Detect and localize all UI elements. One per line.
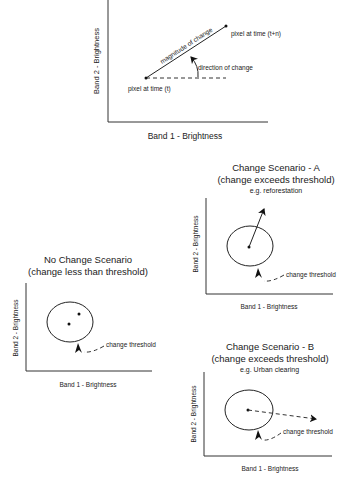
- scenario-b-title: Change Scenario - B: [226, 341, 314, 352]
- scenario-a-title: Change Scenario - A: [232, 162, 320, 173]
- scenario-b-plot: Change Scenario - B (change exceeds thre…: [190, 341, 333, 473]
- y-axis-label: Band 2 - Brightness: [190, 385, 198, 443]
- pixel-tn-dot: [225, 25, 228, 28]
- threshold-pointer: [264, 275, 284, 281]
- scenario-a-subtitle: (change exceeds threshold): [217, 174, 334, 185]
- no-change-title: No Change Scenario: [44, 254, 132, 265]
- threshold-arrowhead: [255, 430, 262, 440]
- threshold-label: change threshold: [286, 271, 336, 279]
- y-axis-label: Band 2 - Brightness: [12, 299, 20, 357]
- change-vector-diagram: Band 2 - Brightness Band 1 - Brightness …: [0, 0, 357, 483]
- x-axis-label: Band 1 - Brightness: [240, 303, 298, 311]
- scenario-a-plot: Change Scenario - A (change exceeds thre…: [192, 162, 336, 311]
- threshold-pointer: [263, 433, 281, 440]
- scenario-b-example: e.g. Urban clearing: [240, 366, 299, 374]
- pixel-tn-label: pixel at time (t+n): [231, 30, 281, 38]
- top-vector-plot: Band 2 - Brightness Band 1 - Brightness …: [92, 0, 281, 141]
- no-change-subtitle: (change less than threshold): [28, 266, 148, 277]
- scenario-b-subtitle: (change exceeds threshold): [211, 353, 328, 364]
- threshold-label: change threshold: [106, 341, 156, 349]
- threshold-arrowhead: [75, 343, 82, 353]
- no-change-plot: No Change Scenario (change less than thr…: [12, 254, 156, 389]
- threshold-arrowhead: [255, 268, 262, 278]
- pixel-tn-dot: [78, 313, 81, 316]
- y-axis-label: Band 2 - Brightness: [192, 215, 200, 273]
- x-axis-label: Band 1 - Brightness: [148, 131, 223, 141]
- x-axis-label: Band 1 - Brightness: [241, 465, 299, 473]
- direction-label: direction of change: [198, 64, 253, 72]
- pixel-t-dot: [145, 77, 148, 80]
- scenario-a-example: e.g. reforestation: [250, 187, 303, 195]
- pixel-t-dot: [68, 323, 71, 326]
- magnitude-label: magnitude of change: [159, 26, 215, 66]
- change-vector-arrow: [248, 410, 316, 419]
- pixel-t-label: pixel at time (t): [128, 85, 171, 93]
- change-vector-arrow: [249, 209, 264, 247]
- y-axis-label: Band 2 - Brightness: [92, 28, 101, 94]
- threshold-label: change threshold: [283, 428, 333, 436]
- x-axis-label: Band 1 - Brightness: [59, 381, 117, 389]
- threshold-ellipse: [47, 302, 93, 342]
- threshold-pointer: [84, 346, 104, 352]
